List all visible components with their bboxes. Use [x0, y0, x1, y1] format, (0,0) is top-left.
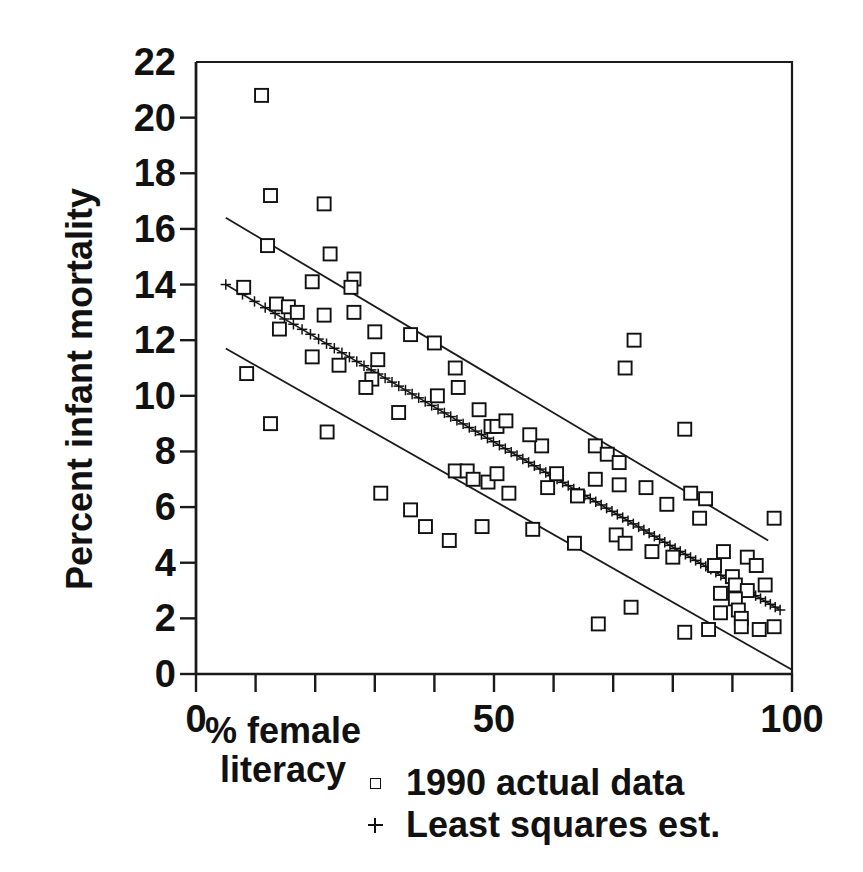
data-point-square — [467, 473, 480, 486]
data-point-square — [660, 498, 673, 511]
x-tick-label: 50 — [473, 700, 515, 738]
data-point-square — [344, 281, 357, 294]
data-point-square — [523, 428, 536, 441]
y-axis-label: Percent infant mortality — [59, 109, 101, 669]
legend-item-actual-data: 1990 actual data — [358, 762, 720, 804]
data-point-square — [431, 389, 444, 402]
lower-confidence-band — [226, 349, 792, 670]
data-point-square — [550, 467, 563, 480]
data-point-square — [645, 545, 658, 558]
data-point-square — [699, 492, 712, 505]
data-point-square — [237, 281, 250, 294]
data-point-square — [359, 381, 372, 394]
data-point-square — [318, 309, 331, 322]
data-point-square — [619, 537, 632, 550]
data-point-square — [684, 487, 697, 500]
data-point-square — [404, 503, 417, 516]
data-point-square — [735, 620, 748, 633]
data-point-square — [273, 323, 286, 336]
chart-figure: 0246810121416182022 050100 Percent infan… — [0, 0, 863, 872]
data-point-square — [768, 620, 781, 633]
data-point-square — [261, 239, 274, 252]
data-point-square — [526, 523, 539, 536]
data-point-square — [306, 275, 319, 288]
data-point-square — [291, 306, 304, 319]
square-marker-icon — [358, 778, 392, 789]
data-point-square — [753, 623, 766, 636]
data-point-square — [499, 414, 512, 427]
data-point-square — [702, 623, 715, 636]
data-point-square — [428, 336, 441, 349]
data-point-square — [240, 367, 253, 380]
x-axis-label-line1: % female — [168, 712, 398, 751]
data-point-square — [678, 423, 691, 436]
data-point-square — [321, 425, 334, 438]
data-point-square — [592, 617, 605, 630]
data-point-square — [449, 362, 462, 375]
x-axis-ticks — [196, 674, 792, 692]
data-point-square — [750, 559, 763, 572]
legend-label-actual-data: 1990 actual data — [406, 762, 684, 804]
least-squares-markers — [221, 279, 786, 615]
data-point-square — [759, 578, 772, 591]
axes-frame — [196, 62, 792, 674]
data-point-square — [717, 545, 730, 558]
data-point-square — [678, 626, 691, 639]
data-point-square — [502, 487, 515, 500]
data-point-square — [639, 481, 652, 494]
data-point-square — [708, 559, 721, 572]
data-point-square — [264, 417, 277, 430]
data-point-square — [666, 551, 679, 564]
data-point-square — [371, 353, 384, 366]
legend-label-least-squares: Least squares est. — [406, 804, 720, 846]
data-point-square — [368, 325, 381, 338]
data-point-square — [568, 537, 581, 550]
data-point-square — [541, 481, 554, 494]
x-tick-label: 100 — [760, 700, 823, 738]
data-point-square — [264, 189, 277, 202]
data-point-square — [452, 381, 465, 394]
data-point-square — [490, 467, 503, 480]
data-point-square — [404, 328, 417, 341]
data-point-square — [255, 89, 268, 102]
data-point-square — [613, 456, 626, 469]
data-point-square — [589, 473, 602, 486]
data-point-square — [625, 601, 638, 614]
chart-legend: 1990 actual data Least squares est. — [358, 762, 720, 846]
y-tick-label: 22 — [60, 43, 176, 81]
data-point-square — [768, 512, 781, 525]
data-point-markers — [237, 89, 780, 639]
data-point-square — [347, 306, 360, 319]
regression-line — [226, 285, 780, 610]
data-point-square — [419, 520, 432, 533]
data-point-square — [714, 606, 727, 619]
data-point-square — [443, 534, 456, 547]
legend-item-least-squares: Least squares est. — [358, 804, 720, 846]
data-point-square — [714, 587, 727, 600]
y-axis-ticks — [180, 118, 196, 674]
data-point-square — [628, 334, 641, 347]
data-point-square — [392, 406, 405, 419]
data-point-square — [619, 362, 632, 375]
plot-border — [196, 62, 792, 674]
data-point-square — [473, 403, 486, 416]
data-point-square — [333, 359, 346, 372]
data-point-square — [476, 520, 489, 533]
data-point-square — [306, 350, 319, 363]
data-point-square — [613, 478, 626, 491]
data-point-square — [318, 197, 331, 210]
data-point-square — [571, 489, 584, 502]
plus-marker-icon — [358, 818, 392, 833]
data-point-square — [374, 487, 387, 500]
data-point-square — [693, 512, 706, 525]
data-point-square — [324, 247, 337, 260]
